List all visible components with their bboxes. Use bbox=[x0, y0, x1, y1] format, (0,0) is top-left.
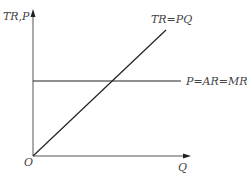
y-axis-arrow-icon bbox=[31, 9, 36, 17]
price-line-label: P=AR=MR bbox=[185, 75, 247, 88]
x-axis-label: Q bbox=[178, 161, 187, 174]
total-revenue-line bbox=[33, 30, 166, 156]
x-axis-arrow-icon bbox=[183, 154, 191, 159]
y-axis-label: TR,P bbox=[3, 10, 30, 23]
revenue-diagram: TR,P Q O TR=PQ P=AR=MR bbox=[0, 0, 247, 178]
total-revenue-label: TR=PQ bbox=[151, 13, 192, 26]
origin-label: O bbox=[24, 156, 33, 169]
